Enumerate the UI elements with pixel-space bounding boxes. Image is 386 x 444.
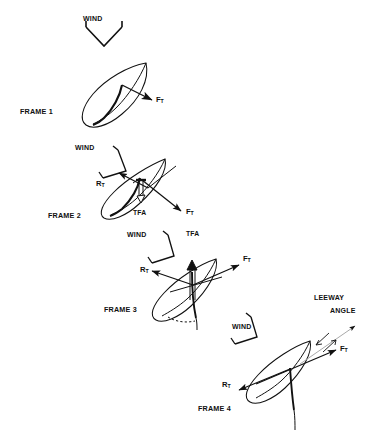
frame-3-rt-label: RT	[140, 266, 149, 274]
frame-3-wind-arrow-icon	[148, 231, 174, 263]
frame-2-label: FRAME 2	[48, 212, 81, 219]
diagram-canvas: WIND FRAME 1 FT WIND RT FRAME 2 TFA FT W…	[0, 0, 386, 444]
frame-3-rt-sub: T	[145, 268, 148, 274]
frame-4-ft-vector	[256, 350, 336, 384]
frame-2-wind-label: WIND	[75, 144, 94, 151]
frame-2-rt-sub: T	[101, 182, 104, 188]
frame-1-label: FRAME 1	[20, 108, 53, 115]
frame-1-ft-sub: T	[161, 98, 164, 104]
frame-1-sail-shape	[82, 63, 147, 127]
frame-1-wind-arrow-icon	[86, 21, 122, 46]
frame-3-sail-shape	[152, 259, 216, 330]
frame-2-ft-label: FT	[186, 208, 194, 216]
frame-2-wind-arrow-icon	[99, 146, 126, 178]
frame-3-rt-vector	[152, 271, 193, 285]
frame-1-ft-label: FT	[156, 96, 164, 104]
frame-3-wind-label: WIND	[127, 231, 146, 238]
frame-4-sail-shape	[246, 341, 310, 430]
frame-1-wind-label: WIND	[83, 15, 102, 22]
frame-2-rt-label: RT	[96, 180, 105, 188]
diagram-vector-layer	[0, 0, 386, 444]
frame-4-rt-sub: T	[227, 383, 230, 389]
frame-3-ft-label: FT	[243, 255, 251, 263]
frame-3-ft-sub: T	[248, 257, 251, 263]
frame-4-rt-label: RT	[222, 381, 231, 389]
frame-4-wind-label: WIND	[232, 323, 251, 330]
frame-4-ft-label: FT	[340, 345, 348, 353]
leeway-angle-line1: LEEWAY	[314, 294, 344, 301]
frame-4-ft-sub: T	[345, 347, 348, 353]
leeway-angle-line2: ANGLE	[330, 307, 356, 314]
frame-3-group	[148, 231, 239, 330]
frame-1-group	[82, 21, 152, 127]
frame-2-ft-sub: T	[191, 210, 194, 216]
frame-4-label: FRAME 4	[198, 405, 231, 412]
frame-3-label: FRAME 3	[104, 306, 137, 313]
frame-4-group	[231, 313, 355, 430]
frame-3-tfa-label: TFA	[186, 231, 199, 238]
frame-2-tfa-label: TFA	[133, 210, 146, 217]
